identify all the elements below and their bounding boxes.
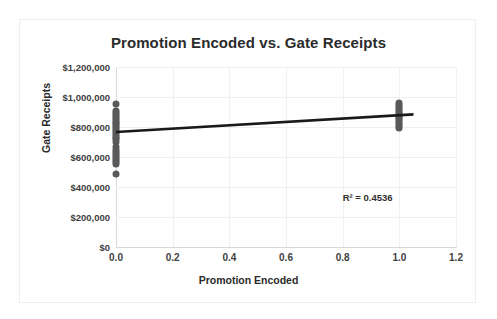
x-tick-label: 0.8 <box>336 252 350 263</box>
x-axis-line <box>116 247 457 248</box>
x-tick-label: 0.6 <box>279 252 293 263</box>
gridline-vertical <box>456 67 457 247</box>
trendline <box>116 67 456 247</box>
y-tick-label: $400,000 <box>70 182 116 193</box>
y-tick-label: $800,000 <box>70 122 116 133</box>
plot-area: $0$200,000$400,000$600,000$800,000$1,000… <box>116 67 456 247</box>
y-tick-label: $0 <box>99 242 116 253</box>
y-tick-label: $200,000 <box>70 212 116 223</box>
y-tick-label: $1,200,000 <box>62 62 116 73</box>
x-tick-label: 1.0 <box>392 252 406 263</box>
x-tick-label: 0.4 <box>222 252 236 263</box>
r-squared-annotation: R² = 0.4536 <box>343 192 393 203</box>
x-tick-label: 0.2 <box>166 252 180 263</box>
y-tick-label: $1,000,000 <box>62 92 116 103</box>
chart-card: Promotion Encoded vs. Gate Receipts Gate… <box>19 19 476 303</box>
x-tick-label: 1.2 <box>449 252 463 263</box>
y-tick-label: $600,000 <box>70 152 116 163</box>
x-tick-label: 0.0 <box>109 252 123 263</box>
chart-title: Promotion Encoded vs. Gate Receipts <box>20 34 477 51</box>
y-axis-title: Gate Receipts <box>40 68 52 168</box>
x-axis-title: Promotion Encoded <box>20 274 477 286</box>
